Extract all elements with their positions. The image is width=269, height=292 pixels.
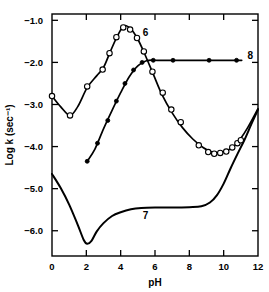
data-point-open-circle: [114, 34, 119, 39]
data-point-open-circle: [178, 119, 183, 124]
x-tick-label: 2: [84, 261, 89, 272]
data-point-filled-circle: [235, 58, 239, 62]
curve-label-7: 7: [143, 210, 149, 221]
data-point-open-circle: [134, 35, 139, 40]
chart-figure: 024681012 −1.0−2.0−3.0−4.0−5.0−6.0 678 p…: [0, 0, 269, 292]
x-axis-label: pH: [148, 277, 161, 288]
data-point-open-circle: [141, 49, 146, 54]
data-point-open-circle: [169, 107, 174, 112]
curve-label-8: 8: [247, 50, 253, 61]
data-point-open-circle: [121, 25, 126, 30]
curve-label-6: 6: [143, 27, 149, 38]
data-point-open-circle: [212, 151, 217, 156]
y-axis-label: Log k (sec⁻¹): [4, 104, 15, 165]
data-point-filled-circle: [114, 99, 118, 103]
y-tick-label: −2.0: [24, 57, 43, 68]
data-point-open-circle: [206, 149, 211, 154]
x-tick-label: 0: [49, 261, 54, 272]
y-tick-label: −1.0: [24, 15, 43, 26]
x-tick-label: 12: [253, 261, 264, 272]
x-tick-label: 4: [118, 261, 124, 272]
y-tick-label: −4.0: [24, 141, 43, 152]
y-tick-label: −5.0: [24, 183, 43, 194]
data-point-open-circle: [49, 93, 54, 98]
data-point-open-circle: [107, 50, 112, 55]
data-point-filled-circle: [123, 81, 127, 85]
data-point-filled-circle: [132, 68, 136, 72]
data-point-open-circle: [100, 67, 105, 72]
data-point-filled-circle: [106, 118, 110, 122]
data-point-open-circle: [196, 143, 201, 148]
data-point-filled-circle: [151, 58, 155, 62]
x-tick-label: 10: [218, 261, 229, 272]
data-point-open-circle: [150, 69, 155, 74]
data-point-open-circle: [67, 113, 72, 118]
data-point-open-circle: [230, 145, 235, 150]
data-point-filled-circle: [207, 58, 211, 62]
data-point-filled-circle: [95, 141, 99, 145]
data-point-open-circle: [84, 84, 89, 89]
data-point-open-circle: [238, 138, 243, 143]
data-point-filled-circle: [85, 159, 89, 163]
y-tick-label: −3.0: [24, 99, 43, 110]
x-tick-label: 8: [187, 261, 192, 272]
kinetics-ph-rate-profile-chart: 024681012 −1.0−2.0−3.0−4.0−5.0−6.0 678 p…: [0, 0, 269, 292]
data-point-open-circle: [127, 27, 132, 32]
y-tick-label: −6.0: [24, 225, 43, 236]
data-point-open-circle: [160, 90, 165, 95]
data-point-open-circle: [218, 150, 223, 155]
data-point-open-circle: [224, 149, 229, 154]
data-point-filled-circle: [171, 58, 175, 62]
x-tick-label: 6: [152, 261, 157, 272]
data-point-filled-circle: [140, 60, 144, 64]
